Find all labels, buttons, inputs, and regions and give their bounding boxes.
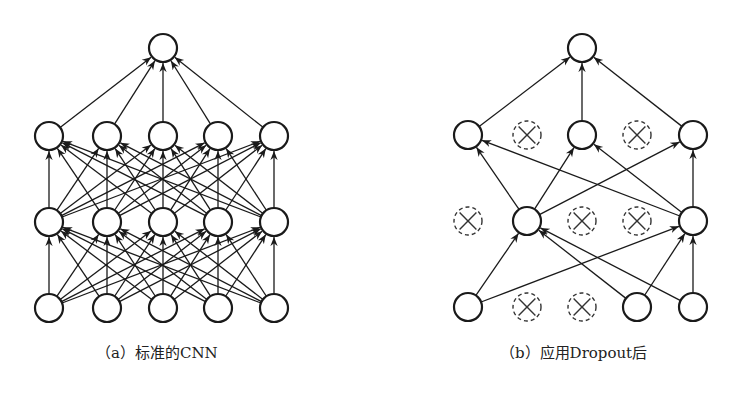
connection-arrow (476, 147, 519, 209)
connection-arrow (594, 144, 682, 212)
neuron-node (679, 207, 707, 235)
connection-arrow (539, 142, 679, 215)
neuron-node (204, 294, 232, 322)
panel-a-standard-cnn (35, 34, 288, 322)
neuron-node (260, 122, 288, 150)
neuron-node (513, 207, 541, 235)
panel-b-after-dropout (454, 34, 707, 321)
neuron-node (204, 208, 232, 236)
connection-arrow (539, 230, 626, 298)
neuron-node (149, 294, 177, 322)
connection-arrow (594, 57, 682, 126)
neuron-node (93, 208, 121, 236)
neuron-node (93, 294, 121, 322)
neuron-node (35, 122, 63, 150)
connection-arrow (645, 234, 685, 296)
neuron-node (35, 208, 63, 236)
connection-arrow (60, 57, 151, 127)
neuron-node (260, 208, 288, 236)
connection-arrow (476, 233, 519, 295)
caption-a: （a）标准的CNN (96, 341, 218, 362)
neuron-node (35, 294, 63, 322)
connection-arrow (540, 228, 680, 301)
neuron-node (93, 122, 121, 150)
connection-arrow (482, 140, 680, 216)
neuron-node (204, 122, 232, 150)
neuron-node (149, 208, 177, 236)
neuron-node (149, 34, 177, 62)
neuron-node (623, 293, 651, 321)
dropout-diagram (0, 0, 732, 394)
neuron-node (679, 121, 707, 149)
neuron-node (149, 122, 177, 150)
edges (49, 57, 274, 303)
connection-arrow (479, 57, 570, 126)
neuron-node (454, 293, 482, 321)
caption-b: （b）应用Dropout后 (500, 341, 647, 362)
neuron-node (454, 121, 482, 149)
neuron-node (260, 294, 288, 322)
neuron-node (679, 293, 707, 321)
neuron-node (568, 121, 596, 149)
neuron-node (568, 34, 596, 62)
edges (476, 57, 693, 302)
connection-arrow (175, 57, 263, 127)
connection-arrow (481, 226, 679, 302)
